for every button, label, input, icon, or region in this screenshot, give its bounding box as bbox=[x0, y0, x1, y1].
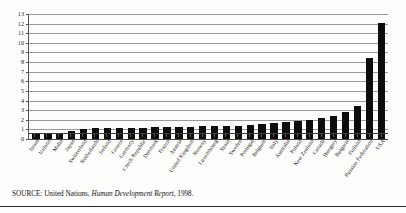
x-label-slot: Iceland bbox=[41, 137, 53, 185]
y-tick-label: 3 bbox=[21, 107, 24, 113]
bar-slot bbox=[268, 14, 280, 139]
bar-slot bbox=[232, 14, 244, 139]
x-tick-label: Italy bbox=[268, 138, 279, 150]
bar-slot bbox=[185, 14, 197, 139]
y-tick-label: 6 bbox=[21, 78, 24, 84]
y-tick-label: 8 bbox=[21, 59, 24, 65]
x-tick-label: USA bbox=[375, 138, 387, 151]
x-label-slot: Australia bbox=[280, 137, 292, 185]
bar-slot bbox=[304, 14, 316, 139]
x-label-slot: Netherlands bbox=[89, 137, 101, 185]
x-label-slot: Hungary bbox=[327, 137, 339, 185]
x-label-slot: Belgium bbox=[256, 137, 268, 185]
x-label-slot: Bulgaria bbox=[339, 137, 351, 185]
y-tick-label: 9 bbox=[21, 49, 24, 55]
y-tick-label: 12 bbox=[18, 21, 24, 27]
bar-slot bbox=[101, 14, 113, 139]
x-axis-labels: IsraelIcelandMaltaJapanSwitzerlandNether… bbox=[28, 137, 388, 185]
bar-slot bbox=[66, 14, 78, 139]
x-label-slot: Sweden bbox=[232, 137, 244, 185]
source-label: SOURCE: United Nations, bbox=[12, 190, 90, 198]
bar-slot bbox=[280, 14, 292, 139]
bar-slot bbox=[137, 14, 149, 139]
x-label-slot: USA bbox=[375, 137, 387, 185]
bar-slot bbox=[42, 14, 54, 139]
x-label-slot: Malta bbox=[53, 137, 65, 185]
y-tick-label: 4 bbox=[21, 98, 24, 104]
bar-slot bbox=[78, 14, 90, 139]
bar-slot bbox=[30, 14, 42, 139]
y-tick-label: 11 bbox=[18, 30, 24, 36]
bar-slot bbox=[90, 14, 102, 139]
y-tick-label: 2 bbox=[21, 117, 24, 123]
x-label-slot: United Kingdom bbox=[184, 137, 196, 185]
x-label-slot: Russian Federation bbox=[363, 137, 375, 185]
x-label-slot: Czech Republic bbox=[136, 137, 148, 185]
bar-slot bbox=[161, 14, 173, 139]
bar-slot bbox=[340, 14, 352, 139]
y-tick-label: 10 bbox=[18, 40, 24, 46]
x-label-slot: Ireland bbox=[101, 137, 113, 185]
bar-series bbox=[29, 14, 388, 139]
y-tick-label: 0 bbox=[21, 136, 24, 142]
x-label-slot: Portugal bbox=[244, 137, 256, 185]
bar-slot bbox=[221, 14, 233, 139]
bar-slot bbox=[292, 14, 304, 139]
bar bbox=[378, 23, 385, 139]
bar-slot bbox=[363, 14, 375, 139]
bar-slot bbox=[256, 14, 268, 139]
bar-slot bbox=[316, 14, 328, 139]
chart-figure: 131211109876543210 IsraelIcelandMaltaJap… bbox=[0, 0, 406, 213]
x-label-slot: Italy bbox=[268, 137, 280, 185]
bar-slot bbox=[173, 14, 185, 139]
bar-slot bbox=[328, 14, 340, 139]
x-label-slot: Luxembourg bbox=[208, 137, 220, 185]
y-tick-label: 13 bbox=[18, 11, 24, 17]
source-publication-title: Human Development Report bbox=[91, 190, 173, 198]
x-label-slot: New Zealand bbox=[304, 137, 316, 185]
x-label-slot: Denmark bbox=[148, 137, 160, 185]
bottom-rule bbox=[0, 206, 406, 207]
bar-slot bbox=[197, 14, 209, 139]
y-tick-label: 5 bbox=[21, 88, 24, 94]
source-note: SOURCE: United Nations, Human Developmen… bbox=[12, 190, 193, 199]
bar-slot bbox=[209, 14, 221, 139]
bar-slot bbox=[244, 14, 256, 139]
x-label-slot: Canada bbox=[316, 137, 328, 185]
y-axis: 131211109876543210 bbox=[0, 6, 26, 134]
bar-slot bbox=[54, 14, 66, 139]
plot-area bbox=[28, 14, 388, 139]
x-label-slot: Spain bbox=[220, 137, 232, 185]
bar-slot bbox=[149, 14, 161, 139]
x-label-slot: France bbox=[160, 137, 172, 185]
bar-slot bbox=[113, 14, 125, 139]
x-label-slot: Greece bbox=[113, 137, 125, 185]
source-year: , 1998. bbox=[174, 190, 194, 198]
y-tick-label: 1 bbox=[21, 126, 24, 132]
bar-slot bbox=[351, 14, 363, 139]
bar bbox=[366, 58, 373, 139]
y-tick-label: 7 bbox=[21, 69, 24, 75]
bar-slot bbox=[375, 14, 387, 139]
plot-wrapper: 131211109876543210 bbox=[0, 6, 406, 134]
bar-slot bbox=[125, 14, 137, 139]
x-tick-label: Malta bbox=[51, 138, 64, 153]
x-label-slot: Israel bbox=[29, 137, 41, 185]
